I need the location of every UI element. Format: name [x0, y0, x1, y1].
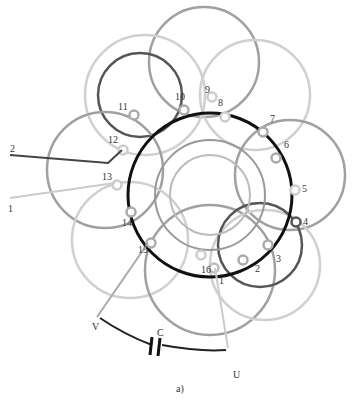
- slot-terminal: [292, 218, 301, 227]
- slot-terminal: [197, 251, 206, 260]
- slot-terminal: [264, 241, 273, 250]
- slot-label: 1: [219, 275, 224, 286]
- lead-2-wire: [10, 150, 122, 163]
- slot-terminal: [221, 113, 230, 122]
- lead-1-label: 1: [8, 203, 13, 214]
- slot-terminal: [127, 208, 136, 217]
- slot-label: 5: [302, 183, 307, 194]
- slot-label: 16: [201, 264, 211, 275]
- capacitor-plate: [150, 337, 152, 355]
- slot-label: 3: [276, 253, 281, 264]
- winding-diagram: 12345678910111213141516 2 1 V U C a): [0, 0, 364, 400]
- rotor-inner: [155, 140, 265, 250]
- slot-label: 8: [218, 97, 223, 108]
- slot-label: 2: [255, 263, 260, 274]
- slot-label: 11: [118, 101, 128, 112]
- slot-label: 13: [102, 171, 112, 182]
- slot-label: 7: [270, 113, 275, 124]
- v-label: V: [92, 321, 100, 332]
- coil-arc: [47, 112, 163, 228]
- slot-terminal: [259, 128, 268, 137]
- slot-label: 6: [284, 139, 289, 150]
- u-label: U: [233, 369, 241, 380]
- slot-terminal: [291, 186, 300, 195]
- slot-label: 15: [138, 244, 148, 255]
- slot-terminal: [180, 106, 189, 115]
- capacitor-wire: [162, 345, 226, 350]
- slot-terminal: [113, 181, 122, 190]
- diagram-svg: 12345678910111213141516 2 1 V U C a): [0, 0, 364, 400]
- slot-label: 9: [205, 84, 210, 95]
- caption: a): [176, 383, 184, 395]
- lead-2-label: 2: [10, 143, 15, 154]
- capacitor-plate: [158, 338, 160, 356]
- slot-label: 12: [108, 134, 118, 145]
- capacitor-label: C: [157, 327, 164, 338]
- slot-label: 14: [122, 217, 132, 228]
- slot-terminal: [272, 154, 281, 163]
- rotor-outer: [128, 113, 292, 277]
- slot-terminal: [239, 256, 248, 265]
- capacitor-wire: [100, 318, 152, 345]
- slot-label: 4: [303, 216, 308, 227]
- slot-terminal: [130, 111, 139, 120]
- slot-label: 10: [175, 91, 185, 102]
